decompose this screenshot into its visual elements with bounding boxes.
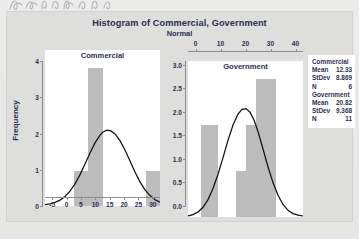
y-tick-label: 2.5: [173, 85, 182, 92]
x-tickmark: [124, 197, 125, 200]
y-axis-title-text: Frequency: [11, 66, 20, 176]
plot-area-commercial: [45, 61, 160, 206]
chart-figure: Histogram of Commercial, Government Norm…: [7, 12, 352, 221]
y-tickmark: [183, 112, 186, 113]
x-tickmark: [138, 197, 139, 200]
y-axis-government: 0.0 0.5 1.0 1.5 2.0 2.5 3.0: [166, 61, 186, 206]
y-tickmark: [183, 65, 186, 66]
stats-row: Mean 20.82: [312, 99, 352, 107]
x-axis-government: 0 10 20 30 40: [188, 40, 303, 52]
x-tickmark: [67, 197, 68, 200]
y-tickmark: [183, 182, 186, 183]
y-tickmark: [183, 206, 186, 207]
x-axis-spine-commercial: [45, 197, 160, 198]
title-block: Histogram of Commercial, Government Norm…: [7, 18, 352, 39]
stats-row: Mean 12.33: [312, 66, 352, 74]
x-tick-label: -5: [49, 201, 55, 208]
page-title: Histogram of Commercial, Government: [7, 18, 352, 29]
stats-key: Mean: [312, 99, 330, 107]
stats-value: 9.368: [336, 107, 352, 115]
stats-key: StDev: [312, 107, 332, 115]
y-tickmark: [183, 88, 186, 89]
y-tickmark: [40, 134, 43, 135]
x-tickmark: [196, 49, 197, 52]
x-tick-label: 25: [135, 201, 142, 208]
x-tick-label: 0: [65, 201, 69, 208]
y-tickmark: [40, 61, 43, 62]
stats-row: N 6: [312, 83, 352, 91]
y-tick-label: 3: [35, 94, 39, 101]
stats-key: N: [312, 115, 319, 123]
y-tick-label: 1: [35, 166, 39, 173]
handwriting-annotation: [6, 0, 256, 12]
y-tickmark: [40, 206, 43, 207]
panel-title-government: Government: [188, 61, 303, 72]
stats-row: StDev 9.368: [312, 107, 352, 115]
stats-value: 6: [348, 83, 352, 91]
y-tick-label: 0.0: [173, 203, 182, 210]
stats-group-commercial: Commercial Mean 12.33 StDev 8.869 N 6: [312, 58, 352, 91]
x-tick-label: 10: [92, 201, 99, 208]
normal-curve-commercial: [45, 61, 160, 206]
x-tickmark: [296, 49, 297, 52]
x-tickmark: [271, 49, 272, 52]
x-axis-commercial: -5 0 5 10 15 20 25 30: [45, 197, 160, 217]
stats-value: 12.33: [336, 66, 352, 74]
y-tickmark: [183, 159, 186, 160]
y-tick-label: 0: [35, 203, 39, 210]
y-tickmark: [183, 135, 186, 136]
stats-value: 11: [345, 115, 352, 123]
chart-subtitle: Normal: [7, 29, 352, 39]
y-tick-label: 1.0: [173, 155, 182, 162]
y-tickmark: [40, 170, 43, 171]
stats-value: 8.869: [336, 74, 352, 82]
stats-group-government: Government Mean 20.82 StDev 9.368 N 11: [312, 91, 352, 124]
stats-group-title: Government: [312, 91, 352, 99]
x-tickmark: [95, 197, 96, 200]
x-tickmark: [110, 197, 111, 200]
x-tick-label: 20: [120, 201, 127, 208]
y-axis-commercial: 0 1 2 3 4: [25, 61, 43, 206]
y-tick-label: 4: [35, 58, 39, 65]
plot-area-government: [188, 72, 303, 217]
y-tick-label: 2: [35, 130, 39, 137]
x-tick-label: 5: [79, 201, 83, 208]
x-tick-label: 10: [217, 40, 224, 47]
x-tick-label: 40: [292, 40, 299, 47]
stats-value: 20.82: [336, 99, 352, 107]
x-tickmark: [153, 197, 154, 200]
y-tickmark: [40, 97, 43, 98]
y-axis-title: Frequency: [8, 68, 22, 178]
y-tick-label: 2.0: [173, 108, 182, 115]
panel-government: Government: [188, 61, 303, 217]
y-tick-label: 1.5: [173, 132, 182, 139]
x-tick-label: 20: [242, 40, 249, 47]
normal-curve-government: [188, 72, 303, 217]
x-tickmark: [221, 49, 222, 52]
x-tickmark: [52, 197, 53, 200]
stats-row: N 11: [312, 115, 352, 123]
panel-commercial: Commercial: [45, 50, 160, 206]
y-tick-label: 3.0: [173, 61, 182, 68]
panel-title-commercial: Commercial: [45, 50, 160, 61]
x-tick-label: 30: [149, 201, 156, 208]
x-tickmark: [81, 197, 82, 200]
stats-key: N: [312, 83, 319, 91]
x-tick-label: 30: [267, 40, 274, 47]
x-tick-label: 0: [194, 40, 198, 47]
x-tick-label: 15: [106, 201, 113, 208]
y-tick-label: 0.5: [173, 179, 182, 186]
y-axis-spine-government: [185, 61, 186, 206]
stats-key: Mean: [312, 66, 330, 74]
stats-key: StDev: [312, 74, 332, 82]
statistics-legend-box: Commercial Mean 12.33 StDev 8.869 N 6 Go…: [308, 55, 355, 128]
x-tickmark: [246, 49, 247, 52]
stats-row: StDev 8.869: [312, 74, 352, 82]
stats-group-title: Commercial: [312, 58, 352, 66]
